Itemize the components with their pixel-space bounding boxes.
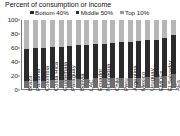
x-axis-tick-label: EMDEs <box>157 71 163 91</box>
bar-segment <box>110 43 115 78</box>
y-axis-tick-label: 60 <box>11 45 18 51</box>
x-axis-tick-label: Guatemala <box>61 62 67 91</box>
bar-segment <box>102 20 107 44</box>
x-axis-tick-label: Panama <box>35 69 41 91</box>
legend-swatch-icon <box>30 11 34 15</box>
x-axis-tick: Guatemala <box>57 91 62 136</box>
y-axis-tick-label: 40 <box>11 59 18 65</box>
y-axis-tick-mark <box>18 62 20 63</box>
legend-swatch-icon <box>120 11 124 15</box>
x-axis-tick-label: AEs <box>175 80 180 91</box>
y-axis-tick-mark <box>18 76 20 77</box>
x-axis-tick-label: Uruguay <box>149 68 155 91</box>
bar-segment <box>50 20 55 47</box>
x-axis-tick: Uruguay <box>145 91 150 136</box>
bar-segment <box>67 20 72 46</box>
bar-segment <box>59 20 64 47</box>
y-axis-tick-mark <box>18 20 20 21</box>
x-axis-tick-label: Peru <box>122 78 128 91</box>
x-axis-tick: Ecuador <box>92 91 97 136</box>
x-axis-tick-label: Chile <box>114 77 120 91</box>
x-axis-tick: EMDEs <box>153 91 158 136</box>
chart-container: Percent of consumption or income Bottom … <box>0 0 180 136</box>
x-axis-tick: AEs <box>171 91 176 136</box>
x-axis-tick: Argentina <box>127 91 132 136</box>
legend-item-bottom-40: Bottom 40% <box>30 9 69 16</box>
bar-segment <box>145 20 150 40</box>
bar-segment <box>93 20 98 44</box>
x-axis-tick: Brazil <box>22 91 27 136</box>
x-axis-tick-label: Ecuador <box>96 69 102 91</box>
x-axis-tick: El Salvador <box>162 91 167 136</box>
legend-label: Top 10% <box>125 9 149 16</box>
x-axis-tick: Panama <box>31 91 36 136</box>
y-axis-tick-mark <box>18 34 20 35</box>
y-axis-tick-mark <box>18 48 20 49</box>
bar-segment <box>136 20 141 41</box>
x-axis-tick-label: Argentina <box>131 65 137 91</box>
x-axis-tick: Paraguay <box>66 91 71 136</box>
x-axis-tick-label: Bolivia <box>79 73 85 91</box>
x-axis-tick: Costa Rica <box>48 91 53 136</box>
y-axis-tick-label: 20 <box>11 73 18 79</box>
bar-segment <box>24 20 29 49</box>
y-axis-tick-label: 80 <box>11 31 18 37</box>
bar-segment <box>154 20 159 40</box>
x-axis-tick-label: Colombia <box>44 66 50 91</box>
x-axis-tick-label: Nicaragua <box>105 64 111 91</box>
bar-segment <box>84 20 89 44</box>
bar-segment <box>110 20 115 43</box>
y-axis-tick-mark <box>18 90 20 91</box>
x-axis-tick-label: Mexico <box>140 72 146 91</box>
y-axis: 020406080100 <box>0 20 20 90</box>
x-axis-tick: Bolivia <box>75 91 80 136</box>
chart-legend: Bottom 40% Middle 50% Top 10% <box>30 9 149 16</box>
bar-lac <box>84 20 89 88</box>
x-axis-tick-label: Paraguay <box>70 65 76 91</box>
legend-label: Bottom 40% <box>35 9 69 16</box>
bar-segment <box>84 45 89 80</box>
bar-segment <box>76 20 81 45</box>
legend-swatch-icon <box>76 11 80 15</box>
x-axis-tick-label: El Salvador <box>166 60 172 91</box>
x-axis-tick: Peru <box>118 91 123 136</box>
x-axis-tick: Chile <box>110 91 115 136</box>
bar-segment <box>119 20 124 42</box>
x-axis-tick: Nicaragua <box>101 91 106 136</box>
legend-item-middle-50: Middle 50% <box>76 9 113 16</box>
bar-segment <box>119 42 124 78</box>
x-axis-tick-label: LAC <box>87 79 93 91</box>
chart-title: Percent of consumption or income <box>5 1 111 9</box>
bar-segment <box>41 20 46 48</box>
x-axis-tick-label: Costa Rica <box>52 62 58 91</box>
x-axis-tick-label: Brazil <box>26 76 32 91</box>
bar-segment <box>162 20 167 38</box>
legend-item-top-10: Top 10% <box>120 9 149 16</box>
x-axis-tick: Mexico <box>136 91 141 136</box>
bar-segment <box>128 20 133 42</box>
bar-segment <box>171 20 176 35</box>
x-axis-tick: LAC <box>83 91 88 136</box>
bar-segment <box>33 20 38 48</box>
legend-label: Middle 50% <box>81 9 113 16</box>
x-axis-labels: BrazilPanamaColombiaCosta RicaGuatemalaP… <box>21 91 177 136</box>
y-axis-tick-label: 100 <box>8 17 18 23</box>
x-axis-tick: Colombia <box>40 91 45 136</box>
